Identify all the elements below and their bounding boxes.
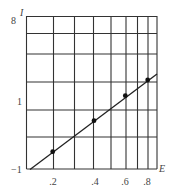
data-point [92, 118, 97, 123]
y-axis-label: I [19, 7, 24, 18]
x-axis-label: E [158, 163, 165, 174]
x-tick-label: .4 [91, 176, 99, 187]
x-tick-label: .6 [121, 176, 129, 187]
chart: 8 I 1 −1 E .2 .4 .6 .8 [0, 0, 172, 194]
y-tick-label-bottom: −1 [11, 164, 22, 175]
x-tick-label: .8 [143, 176, 151, 187]
y-tick-label-mid: 1 [17, 96, 22, 107]
data-point [50, 149, 55, 154]
x-tick-label: .2 [49, 176, 57, 187]
y-tick-label-top: 8 [11, 15, 16, 26]
grid [27, 16, 158, 169]
data-point [145, 78, 150, 83]
data-point [123, 93, 128, 98]
